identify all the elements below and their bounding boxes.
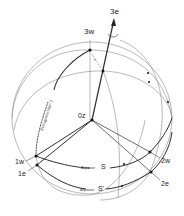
point-1w	[35, 155, 38, 158]
leader-2w	[150, 152, 160, 158]
leader-2e	[151, 172, 160, 180]
leader-1e	[28, 165, 37, 171]
label-equator-sprime-word: Äquator	[80, 188, 94, 192]
label-2e: 2e	[161, 180, 169, 187]
label-1e: 1e	[18, 170, 26, 177]
point-right-1	[147, 72, 149, 74]
point-origin	[90, 118, 93, 121]
label-equator-s-letter: S	[101, 163, 106, 170]
reference-meridian-upper	[54, 50, 90, 90]
label-3w: 3w	[84, 28, 94, 36]
label-equator-s-word: Äquator	[81, 166, 95, 170]
point-1e	[36, 164, 39, 167]
label-2w: 2w	[161, 157, 170, 164]
label-equator-sprime-letter: S'	[98, 185, 104, 192]
right-meridian-2	[103, 71, 119, 198]
rotation-mark	[108, 34, 118, 37]
label-1w: 1w	[15, 158, 24, 165]
point-3w	[88, 48, 91, 51]
right-meridian-1	[100, 40, 162, 200]
point-2w	[149, 151, 152, 154]
arrow-3e-icon	[111, 18, 116, 26]
point-eq-sprime	[121, 185, 123, 187]
label-origin: 0z	[78, 112, 85, 119]
point-right-3	[167, 101, 169, 103]
point-right-2	[148, 81, 150, 83]
leader-1w	[26, 156, 36, 161]
point-meridian	[102, 70, 105, 73]
equator-sprime-left	[37, 165, 86, 189]
point-2e	[150, 171, 153, 174]
label-3e: 3e	[110, 8, 119, 16]
point-eq-s	[123, 163, 125, 165]
